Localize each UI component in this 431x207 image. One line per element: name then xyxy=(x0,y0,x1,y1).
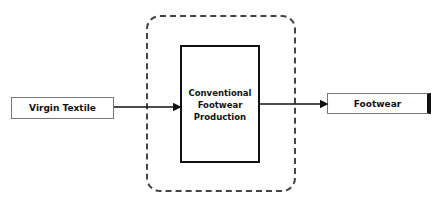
connector-arrows xyxy=(0,0,431,207)
